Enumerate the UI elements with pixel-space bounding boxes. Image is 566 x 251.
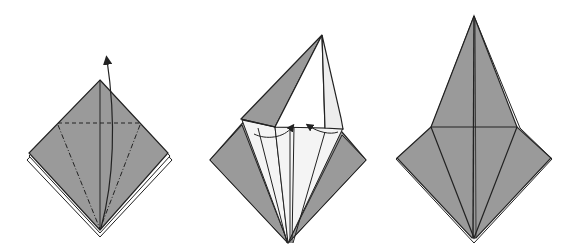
lifted-flap-side	[322, 35, 343, 129]
front-flap	[29, 80, 168, 230]
step-2-figure	[210, 35, 366, 243]
origami-diagram: Square base with dashed valley-fold line…	[0, 0, 566, 251]
step-3-figure	[396, 16, 552, 243]
step-1-figure	[27, 60, 172, 237]
